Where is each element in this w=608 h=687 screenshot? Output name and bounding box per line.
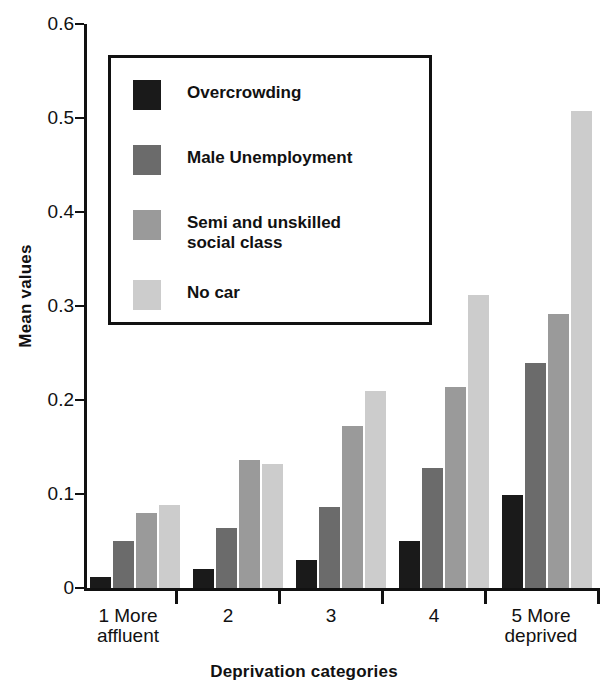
y-tick-mark-0.2 [75, 399, 84, 401]
legend-swatch-semi-and-unskilled-social-class [133, 210, 161, 240]
bar-1-series-4[interactable] [159, 505, 180, 588]
legend-swatch-overcrowding [133, 80, 161, 110]
y-tick-label-0.5: 0.5 [48, 107, 74, 129]
bar-2-series-1[interactable] [193, 569, 214, 588]
legend-label-male-unemployment: Male Unemployment [187, 145, 352, 168]
x-tick-mark-3 [381, 591, 384, 604]
bar-3-series-4[interactable] [365, 391, 386, 588]
bar-3-series-3[interactable] [342, 426, 363, 588]
y-tick-mark-0.3 [75, 305, 84, 307]
y-tick-label-0.4: 0.4 [48, 201, 74, 223]
bar-1-series-1[interactable] [90, 577, 111, 588]
bar-5-series-4[interactable] [571, 111, 592, 588]
legend-item-no-car[interactable]: No car [133, 280, 240, 310]
legend-label-no-car: No car [187, 280, 240, 303]
x-tick-label-5: 5 More deprived [505, 606, 578, 646]
bar-4-series-4[interactable] [468, 295, 489, 588]
y-tick-label-0.3: 0.3 [48, 295, 74, 317]
bar-chart-figure: Mean values 0 0.1 0.2 0.3 0.4 0.5 0.6 1 … [0, 0, 608, 687]
bar-3-series-2[interactable] [319, 507, 340, 588]
x-tick-mark-1 [175, 591, 178, 604]
bar-1-series-2[interactable] [113, 541, 134, 588]
bar-2-series-4[interactable] [262, 464, 283, 588]
y-tick-label-0.6: 0.6 [48, 13, 74, 35]
y-tick-label-0.1: 0.1 [48, 483, 74, 505]
bar-5-series-3[interactable] [548, 314, 569, 588]
x-tick-label-2: 2 [223, 606, 234, 626]
legend-swatch-male-unemployment [133, 145, 161, 175]
bar-2-series-2[interactable] [216, 528, 237, 588]
bar-1-series-3[interactable] [136, 513, 157, 588]
x-tick-label-4: 4 [429, 606, 440, 626]
legend-item-overcrowding[interactable]: Overcrowding [133, 80, 301, 110]
bar-4-series-1[interactable] [399, 541, 420, 588]
legend-swatch-no-car [133, 280, 161, 310]
bar-2-series-3[interactable] [239, 460, 260, 588]
y-tick-label-0: 0 [63, 577, 74, 599]
bar-5-series-1[interactable] [502, 495, 523, 588]
x-tick-mark-2 [278, 591, 281, 604]
y-tick-mark-0.6 [75, 23, 84, 25]
bar-3-series-1[interactable] [296, 560, 317, 588]
y-tick-label-0.2: 0.2 [48, 389, 74, 411]
y-tick-mark-0 [75, 587, 84, 589]
x-tick-label-3: 3 [326, 606, 337, 626]
legend-label-semi-and-unskilled-social-class: Semi and unskilled social class [187, 210, 341, 253]
bar-4-series-3[interactable] [445, 387, 466, 588]
chart-legend: Overcrowding Male Unemployment Semi and … [108, 55, 432, 325]
legend-item-male-unemployment[interactable]: Male Unemployment [133, 145, 352, 175]
y-tick-mark-0.4 [75, 211, 84, 213]
y-axis-tick-labels: 0 0.1 0.2 0.3 0.4 0.5 0.6 [0, 0, 76, 687]
legend-label-overcrowding: Overcrowding [187, 80, 301, 103]
bar-5-series-2[interactable] [525, 363, 546, 588]
legend-item-semi-and-unskilled-social-class[interactable]: Semi and unskilled social class [133, 210, 341, 253]
x-tick-mark-4 [484, 591, 487, 604]
y-tick-mark-0.1 [75, 493, 84, 495]
x-axis-line [84, 588, 600, 591]
x-tick-label-1: 1 More affluent [97, 606, 159, 646]
y-tick-mark-0.5 [75, 117, 84, 119]
x-axis-title: Deprivation categories [0, 662, 608, 682]
bar-group-5 [502, 24, 594, 588]
x-tick-mark-5 [597, 591, 600, 604]
bar-4-series-2[interactable] [422, 468, 443, 588]
